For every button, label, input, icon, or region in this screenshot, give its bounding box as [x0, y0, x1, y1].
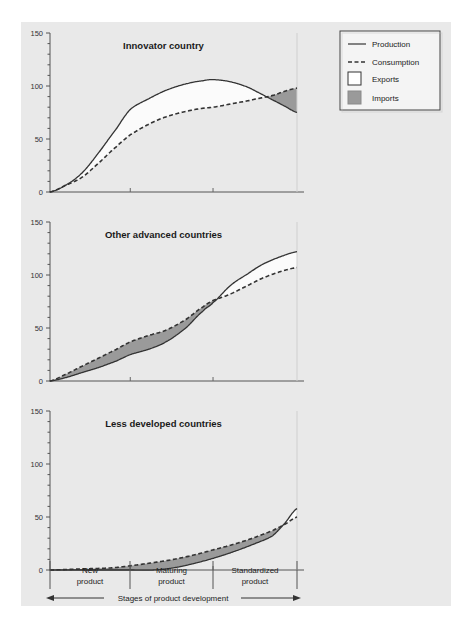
- axis-caption-text: Stages of product development: [118, 594, 230, 603]
- panel-title-3: Less developed countries: [105, 418, 222, 429]
- y-tick-label-150-panel-3: 150: [30, 407, 43, 416]
- y-tick-label-0-panel-1: 0: [39, 188, 43, 197]
- legend-label-consumption: Consumption: [372, 58, 419, 67]
- chart-svg: 050100150Innovator country050100150Other…: [0, 0, 472, 637]
- stage-label-maturing-product-line2: product: [158, 577, 185, 586]
- y-tick-label-50-panel-1: 50: [35, 135, 43, 144]
- panel-title-2: Other advanced countries: [105, 229, 222, 240]
- panel-title-1: Innovator country: [123, 40, 204, 51]
- y-tick-label-100-panel-2: 100: [30, 271, 43, 280]
- legend-label-exports: Exports: [372, 75, 399, 84]
- stage-label-standardized-product-line2: product: [242, 577, 269, 586]
- y-tick-label-100-panel-3: 100: [30, 460, 43, 469]
- legend-label-production: Production: [372, 40, 410, 49]
- chart-legend: Production Consumption Exports Imports: [340, 31, 442, 112]
- y-tick-label-100-panel-1: 100: [30, 82, 43, 91]
- y-tick-label-50-panel-3: 50: [35, 513, 43, 522]
- white-swatch-icon: [348, 72, 361, 85]
- stage-label-new-product-line2: product: [77, 577, 104, 586]
- y-tick-label-150-panel-2: 150: [30, 218, 43, 227]
- stage-label-maturing-product-line1: Maturing: [156, 566, 187, 575]
- y-tick-label-50-panel-2: 50: [35, 324, 43, 333]
- chart-figure: 050100150Innovator country050100150Other…: [0, 0, 472, 637]
- y-tick-label-0-panel-2: 0: [39, 377, 43, 386]
- y-tick-label-150-panel-1: 150: [30, 29, 43, 38]
- stage-label-new-product-line1: New: [82, 566, 98, 575]
- gray-swatch-icon: [348, 91, 361, 104]
- y-tick-label-0-panel-3: 0: [39, 566, 43, 575]
- stage-label-standardized-product-line1: Standardized: [231, 566, 278, 575]
- legend-label-imports: Imports: [372, 94, 399, 103]
